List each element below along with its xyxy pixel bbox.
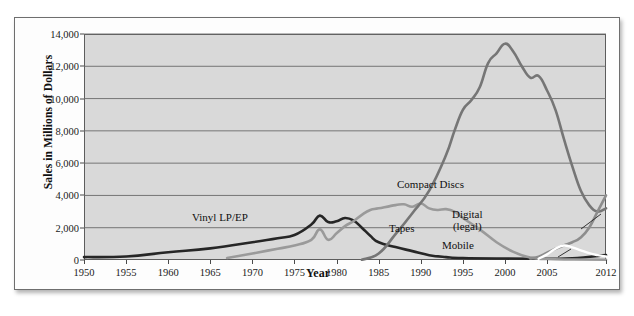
x-tick-mark bbox=[379, 260, 380, 264]
x-tick-label: 1970 bbox=[242, 267, 263, 278]
y-tick-mark bbox=[80, 227, 84, 228]
series-label-digital-legal: Digital(legal) bbox=[452, 208, 483, 233]
x-tick-label: 1955 bbox=[116, 267, 137, 278]
y-tick-label: 10,000 bbox=[50, 93, 79, 104]
x-tick-label: 1965 bbox=[200, 267, 221, 278]
x-tick-mark bbox=[168, 260, 169, 264]
y-axis-title: Sales in Millions of Dollars bbox=[42, 7, 54, 237]
y-tick-label: 6,000 bbox=[55, 158, 79, 169]
x-tick-mark bbox=[547, 260, 548, 264]
y-tick-mark bbox=[80, 66, 84, 67]
series-line-vinyl-lp-ep bbox=[84, 216, 606, 259]
x-tick-label: 1980 bbox=[326, 267, 347, 278]
x-tick-mark bbox=[252, 260, 253, 264]
x-tick-label: 2005 bbox=[537, 267, 558, 278]
x-tick-mark bbox=[337, 260, 338, 264]
chart-canvas bbox=[84, 34, 606, 260]
chart-card: Sales in Millions of Dollars Year 02,000… bbox=[14, 17, 620, 290]
x-tick-label: 1960 bbox=[158, 267, 179, 278]
y-tick-mark bbox=[80, 130, 84, 131]
x-tick-label: 1990 bbox=[410, 267, 431, 278]
x-tick-label: 2012 bbox=[596, 267, 617, 278]
x-tick-mark bbox=[505, 260, 506, 264]
annotation-leader-line bbox=[558, 249, 571, 257]
x-tick-mark bbox=[210, 260, 211, 264]
series-line-digital-legal bbox=[530, 195, 606, 258]
x-tick-mark bbox=[126, 260, 127, 264]
series-label-compact-discs: Compact Discs bbox=[397, 178, 464, 190]
y-tick-mark bbox=[80, 34, 84, 35]
x-tick-label: 2000 bbox=[494, 267, 515, 278]
y-tick-mark bbox=[80, 195, 84, 196]
chart-page: Sales in Millions of Dollars Year 02,000… bbox=[0, 0, 634, 316]
x-tick-mark bbox=[606, 260, 607, 264]
x-tick-mark bbox=[294, 260, 295, 264]
y-tick-label: 12,000 bbox=[50, 61, 79, 72]
y-tick-label: 8,000 bbox=[55, 125, 79, 136]
x-tick-mark bbox=[463, 260, 464, 264]
series-label-mobile: Mobile bbox=[442, 239, 474, 251]
series-label-line: (legal) bbox=[452, 220, 483, 232]
series-label-vinyl-lp-ep: Vinyl LP/EP bbox=[192, 211, 248, 223]
x-tick-label: 1950 bbox=[74, 267, 95, 278]
series-label-line: Vinyl LP/EP bbox=[192, 211, 248, 223]
y-tick-mark bbox=[80, 98, 84, 99]
series-label-line: Digital bbox=[452, 208, 483, 220]
x-tick-mark bbox=[421, 260, 422, 264]
series-label-line: Tapes bbox=[389, 222, 415, 234]
series-label-line: Compact Discs bbox=[397, 178, 464, 190]
y-tick-label: 4,000 bbox=[55, 190, 79, 201]
x-axis-title: Year bbox=[15, 266, 621, 281]
y-tick-mark bbox=[80, 163, 84, 164]
y-tick-label: 14,000 bbox=[50, 29, 79, 40]
y-tick-label: 2,000 bbox=[55, 222, 79, 233]
plot-wrapper: 02,0004,0006,0008,00010,00012,00014,000 … bbox=[84, 34, 606, 260]
series-label-tapes: Tapes bbox=[389, 222, 415, 234]
x-tick-label: 1985 bbox=[368, 267, 389, 278]
y-tick-label: 0 bbox=[74, 255, 79, 266]
x-tick-mark bbox=[84, 260, 85, 264]
series-label-line: Mobile bbox=[442, 239, 474, 251]
x-tick-label: 1975 bbox=[284, 267, 305, 278]
x-tick-label: 1995 bbox=[452, 267, 473, 278]
